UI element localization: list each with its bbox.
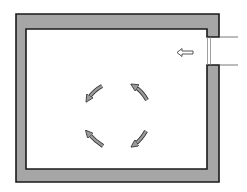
inlet-arrow-icon (177, 49, 193, 57)
wall-opening (208, 37, 239, 65)
floor-plan-diagram (0, 0, 247, 192)
circulation-arrows (88, 86, 147, 146)
wall-shape (16, 14, 219, 182)
room-walls (16, 14, 219, 182)
